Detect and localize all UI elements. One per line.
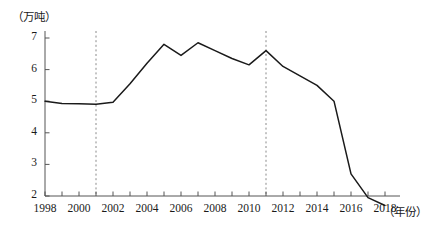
- x-tick-label-2018: 2018: [365, 202, 405, 214]
- axis-ticks-group: [45, 38, 385, 196]
- y-tick-label-4: 4: [21, 125, 37, 137]
- y-tick-label-3: 3: [21, 156, 37, 168]
- y-tick-label-6: 6: [21, 62, 37, 74]
- y-tick-label-5: 5: [21, 93, 37, 105]
- y-tick-label-7: 7: [21, 30, 37, 42]
- axes-group: [45, 31, 400, 196]
- y-tick-label-2: 2: [21, 188, 37, 200]
